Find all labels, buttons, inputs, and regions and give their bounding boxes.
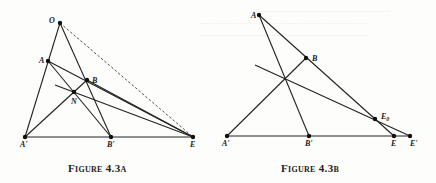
- caption-figure-4-3b: Figure 4.3b: [281, 162, 339, 174]
- point-eprime: [408, 134, 412, 138]
- point-e0: [373, 117, 377, 121]
- label-o: O: [49, 16, 55, 25]
- geometry-diagrams: O A B N A' B' E A B E0 A' B' E E': [0, 0, 436, 183]
- label-eprime: E': [409, 139, 418, 148]
- point-n: [72, 90, 76, 94]
- caption-figure-4-3a: Figure 4.3a: [68, 162, 127, 174]
- figure-4-3a: [25, 23, 193, 137]
- label-a: A: [38, 56, 45, 65]
- label-bprime: B': [106, 140, 115, 149]
- point-aprime: [23, 135, 27, 139]
- label-e: E: [189, 140, 195, 149]
- label-aprime: A': [19, 140, 28, 149]
- label-aprime: A': [221, 139, 230, 148]
- label-b: B: [91, 76, 98, 85]
- label-e: E: [390, 139, 396, 148]
- figure-4-3a-points: [23, 21, 195, 139]
- line-a-bprime: [259, 15, 309, 136]
- point-b: [304, 56, 308, 60]
- line-intersection-eprime: [255, 65, 410, 136]
- line-o-aprime: [25, 23, 60, 137]
- point-e: [191, 135, 195, 139]
- point-bprime: [109, 135, 113, 139]
- point-aprime: [225, 134, 229, 138]
- label-bprime: B': [304, 139, 313, 148]
- figure-4-3b-labels: A B E0 A' B' E E': [221, 11, 418, 148]
- label-n: N: [70, 97, 78, 106]
- point-a: [257, 13, 261, 17]
- point-bprime: [307, 134, 311, 138]
- label-b: B: [311, 54, 318, 63]
- point-b: [85, 78, 89, 82]
- label-e0: E0: [380, 112, 389, 122]
- point-e: [392, 134, 396, 138]
- line-a-bprime: [48, 61, 111, 137]
- point-o: [58, 21, 62, 25]
- line-b-e: [87, 80, 193, 137]
- point-a: [46, 59, 50, 63]
- line-o-e-dashed: [60, 23, 193, 137]
- label-a: A: [250, 11, 257, 20]
